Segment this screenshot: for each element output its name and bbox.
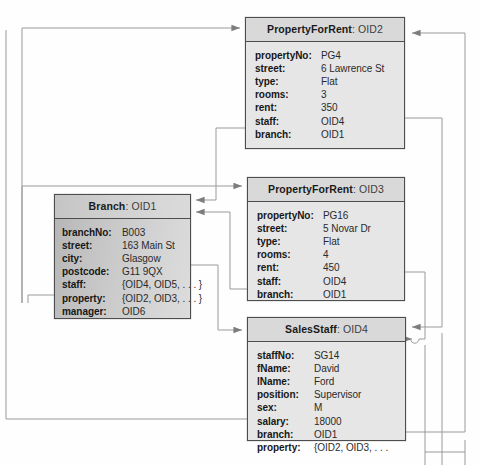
attribute-row: branch:OID1 bbox=[255, 128, 404, 141]
attribute-key: position: bbox=[257, 388, 314, 401]
attribute-row: branch:OID1 bbox=[257, 428, 405, 441]
object-identifier: OID3 bbox=[359, 183, 384, 195]
attribute-row: lName:Ford bbox=[257, 375, 405, 388]
attribute-row: position:Supervisor bbox=[257, 388, 405, 401]
attribute-value: Supervisor bbox=[314, 388, 361, 401]
attribute-value: M bbox=[314, 401, 322, 414]
attribute-value: OID4 bbox=[321, 115, 344, 128]
attribute-key: branch: bbox=[255, 128, 321, 141]
attribute-row: street:163 Main St bbox=[62, 239, 190, 252]
attribute-key: propertyNo: bbox=[257, 209, 323, 222]
attribute-value: 18000 bbox=[314, 415, 342, 428]
attribute-value: 350 bbox=[321, 101, 338, 114]
attribute-key: type: bbox=[255, 75, 321, 88]
attribute-row: rooms:3 bbox=[255, 88, 404, 101]
attribute-key: city: bbox=[62, 252, 122, 265]
connector-property-oid3-staff-to-salesstaff bbox=[405, 272, 425, 343]
attribute-row: rooms:4 bbox=[257, 248, 404, 261]
object-box-branch-oid1[interactable]: Branch: OID1 branchNo:B003 street:163 Ma… bbox=[54, 194, 191, 319]
attribute-value: OID1 bbox=[321, 128, 344, 141]
object-separator: : bbox=[337, 323, 340, 335]
attribute-row: rent:350 bbox=[255, 101, 404, 114]
object-identifier: OID2 bbox=[358, 23, 383, 35]
object-title-salesstaff-oid4: SalesStaff: OID4 bbox=[248, 318, 405, 342]
attribute-list: branchNo:B003 street:163 Main St city:Gl… bbox=[55, 219, 190, 325]
object-title-property-for-rent-oid2: PropertyForRent: OID2 bbox=[246, 18, 404, 42]
attribute-row: staffNo:SG14 bbox=[257, 349, 405, 362]
attribute-value: {OID2, OID3, . . . bbox=[314, 441, 388, 454]
attribute-key: postcode: bbox=[62, 265, 122, 278]
object-title-branch-oid1: Branch: OID1 bbox=[55, 195, 190, 219]
attribute-row: city:Glasgow bbox=[62, 252, 190, 265]
object-box-property-for-rent-oid3[interactable]: PropertyForRent: OID3 propertyNo:PG16 st… bbox=[247, 177, 405, 301]
attribute-value: SG14 bbox=[314, 349, 339, 362]
diagram-canvas: PropertyForRent: OID2 propertyNo:PG4 str… bbox=[0, 0, 479, 465]
attribute-key: staff: bbox=[257, 275, 323, 288]
attribute-value: 4 bbox=[323, 248, 329, 261]
attribute-row: propertyNo:PG16 bbox=[257, 209, 404, 222]
page-margin-artifact bbox=[466, 8, 479, 100]
attribute-key: rooms: bbox=[255, 88, 321, 101]
attribute-row: manager:OID6 bbox=[62, 305, 190, 318]
object-class-name: PropertyForRent bbox=[268, 183, 353, 195]
attribute-key: property: bbox=[62, 292, 122, 305]
attribute-row: street:5 Novar Dr bbox=[257, 222, 404, 235]
attribute-value: PG16 bbox=[323, 209, 348, 222]
attribute-value: Glasgow bbox=[122, 252, 161, 265]
attribute-value: {OID4, OID5, . . . } bbox=[122, 278, 202, 291]
attribute-row: salary:18000 bbox=[257, 415, 405, 428]
attribute-key: fName: bbox=[257, 362, 314, 375]
attribute-key: lName: bbox=[257, 375, 314, 388]
object-class-name: Branch bbox=[89, 200, 126, 212]
attribute-value: OID1 bbox=[323, 288, 346, 301]
attribute-key: property: bbox=[257, 441, 314, 454]
attribute-value: Flat bbox=[323, 235, 339, 248]
attribute-list: staffNo:SG14 fName:David lName:Ford posi… bbox=[248, 342, 405, 462]
attribute-row: rent:450 bbox=[257, 261, 404, 274]
attribute-key: rooms: bbox=[257, 248, 323, 261]
object-identifier: OID1 bbox=[131, 200, 156, 212]
attribute-key: street: bbox=[255, 62, 321, 75]
attribute-list: propertyNo:PG4 street:6 Lawrence St type… bbox=[246, 42, 404, 148]
object-identifier: OID4 bbox=[343, 323, 368, 335]
attribute-key: street: bbox=[62, 239, 122, 252]
attribute-key: staffNo: bbox=[257, 349, 314, 362]
attribute-row: staff:{OID4, OID5, . . . } bbox=[62, 278, 190, 291]
attribute-value: 3 bbox=[321, 88, 327, 101]
object-title-property-for-rent-oid3: PropertyForRent: OID3 bbox=[248, 178, 404, 202]
attribute-value: G11 9QX bbox=[122, 265, 163, 278]
attribute-value: 450 bbox=[323, 261, 340, 274]
connector-property-oid2-staff-to-salesstaff bbox=[405, 118, 442, 327]
attribute-row: type:Flat bbox=[257, 235, 404, 248]
attribute-key: staff: bbox=[255, 115, 321, 128]
attribute-row: fName:David bbox=[257, 362, 405, 375]
connector-salesstaff-property-to-property-oid2 bbox=[406, 33, 465, 432]
attribute-value: David bbox=[314, 362, 339, 375]
attribute-row: propertyNo:PG4 bbox=[255, 49, 404, 62]
object-separator: : bbox=[353, 183, 356, 195]
attribute-row: postcode:G11 9QX bbox=[62, 265, 190, 278]
attribute-key: salary: bbox=[257, 415, 314, 428]
attribute-row: property:{OID2, OID3, . . . } bbox=[62, 292, 190, 305]
object-separator: : bbox=[125, 200, 128, 212]
attribute-key: branchNo: bbox=[62, 226, 122, 239]
attribute-key: sex: bbox=[257, 401, 314, 414]
attribute-row: street:6 Lawrence St bbox=[255, 62, 404, 75]
attribute-list: propertyNo:PG16 street:5 Novar Dr type:F… bbox=[248, 202, 404, 308]
attribute-value: OID4 bbox=[323, 275, 346, 288]
attribute-key: propertyNo: bbox=[255, 49, 321, 62]
attribute-key: street: bbox=[257, 222, 323, 235]
attribute-value: 6 Lawrence St bbox=[321, 62, 384, 75]
attribute-value: OID1 bbox=[314, 428, 337, 441]
attribute-key: branch: bbox=[257, 288, 323, 301]
attribute-row: property:{OID2, OID3, . . . bbox=[257, 441, 405, 454]
object-box-salesstaff-oid4[interactable]: SalesStaff: OID4 staffNo:SG14 fName:Davi… bbox=[247, 317, 406, 441]
attribute-row: staff:OID4 bbox=[255, 115, 404, 128]
attribute-row: branchNo:B003 bbox=[62, 226, 190, 239]
attribute-value: PG4 bbox=[321, 49, 341, 62]
object-box-property-for-rent-oid2[interactable]: PropertyForRent: OID2 propertyNo:PG4 str… bbox=[245, 17, 405, 149]
attribute-value: B003 bbox=[122, 226, 145, 239]
attribute-value: 5 Novar Dr bbox=[323, 222, 371, 235]
attribute-value: Flat bbox=[321, 75, 337, 88]
attribute-key: branch: bbox=[257, 428, 314, 441]
